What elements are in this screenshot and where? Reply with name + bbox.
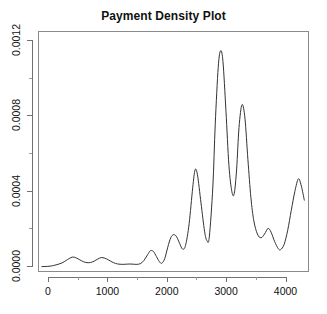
x-tick-1000: [107, 277, 108, 282]
x-tick-0: [48, 277, 49, 282]
plot-area: [38, 31, 309, 272]
y-minor-tick: [29, 78, 32, 79]
x-tick-label-4000: 4000: [274, 285, 297, 297]
density-line-path: [42, 51, 304, 267]
y-tick-0.0004: [27, 191, 32, 192]
y-tick-0.0012: [27, 40, 32, 41]
y-minor-tick: [29, 153, 32, 154]
x-minor-tick-500: [78, 277, 79, 280]
x-minor-tick-3500: [256, 277, 257, 280]
density-curve-svg: [39, 32, 310, 273]
x-minor-tick-2500: [196, 277, 197, 280]
y-tick-label-0.0008: 0.0008: [10, 99, 22, 131]
chart-root: Payment Density Plot 01000200030004000 0…: [0, 0, 327, 314]
x-tick-label-2000: 2000: [155, 285, 178, 297]
y-tick-label-0.0012: 0.0012: [10, 24, 22, 56]
x-tick-label-3000: 3000: [214, 285, 237, 297]
y-axis-line: [32, 40, 33, 267]
chart-title: Payment Density Plot: [0, 9, 327, 23]
x-tick-3000: [226, 277, 227, 282]
x-tick-2000: [167, 277, 168, 282]
y-minor-tick: [29, 228, 32, 229]
y-tick-0.0008: [27, 115, 32, 116]
y-tick-label-0.0000: 0.0000: [10, 250, 22, 282]
y-tick-label-0.0004: 0.0004: [10, 175, 22, 207]
x-minor-tick-1500: [137, 277, 138, 280]
y-tick-0.0000: [27, 266, 32, 267]
x-tick-4000: [286, 277, 287, 282]
x-tick-label-0: 0: [45, 285, 51, 297]
x-tick-label-1000: 1000: [96, 285, 119, 297]
